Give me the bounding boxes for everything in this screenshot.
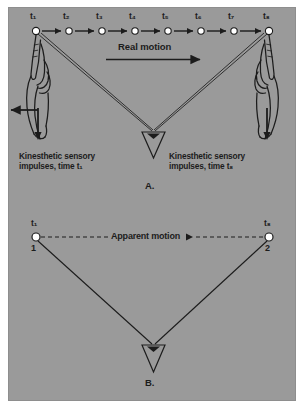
panel-b-apparent-motion-label: Apparent motion xyxy=(110,231,181,242)
figure-panel-background xyxy=(8,7,296,401)
panel-b-endpoint-number-right: 2 xyxy=(265,243,270,254)
panel-b-letter: B. xyxy=(145,377,155,388)
panel-b-time-label-left: t₁ xyxy=(31,218,37,228)
panel-a-time-label-t6: t₆ xyxy=(195,11,201,21)
panel-a-time-label-t1: t₁ xyxy=(30,11,36,21)
panel-a-time-label-t5: t₅ xyxy=(162,11,168,21)
panel-b-time-label-right: t₈ xyxy=(264,218,270,228)
panel-b-endpoint-number-left: 1 xyxy=(31,243,36,254)
panel-a-right-caption: Kinesthetic sensory impulses, time t₈ xyxy=(169,152,245,172)
panel-a-right-caption-line2: impulses, time t₈ xyxy=(169,162,245,172)
panel-a-real-motion-label: Real motion xyxy=(118,41,171,52)
panel-a-time-label-t8: t₈ xyxy=(263,11,269,21)
motion-perception-figure: t₁ t₂ t₃ t₄ t₅ t₆ t₇ t₈ Real motion Kine… xyxy=(0,0,304,410)
panel-a-left-caption: Kinesthetic sensory impulses, time t₁ xyxy=(19,152,95,172)
panel-a-time-label-t2: t₂ xyxy=(63,11,69,21)
panel-a-left-caption-line2: impulses, time t₁ xyxy=(19,162,95,172)
panel-a-time-label-t4: t₄ xyxy=(129,11,135,21)
panel-a-time-label-t7: t₇ xyxy=(228,11,234,21)
panel-a-time-label-t3: t₃ xyxy=(96,11,102,21)
panel-a-letter: A. xyxy=(145,180,155,191)
